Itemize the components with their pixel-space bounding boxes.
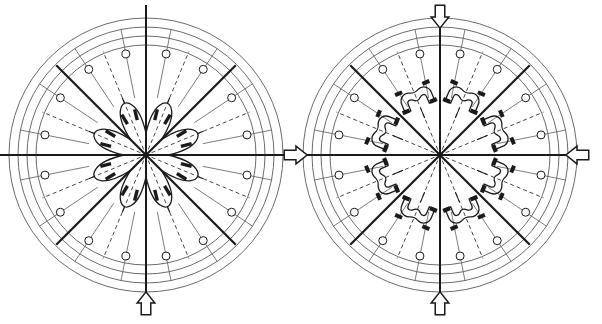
spoke-marker-circle <box>56 94 64 102</box>
spoke-marker-circle <box>335 171 343 179</box>
jaw-shoulder-right <box>375 109 382 117</box>
spoke-marker-circle <box>162 50 170 58</box>
jaw-connector-stub <box>122 207 124 213</box>
spoke-line <box>40 84 98 123</box>
jaw-tip-block <box>181 164 192 167</box>
jaw-connector-stub <box>167 207 169 213</box>
spoke-marker-circle <box>493 237 501 245</box>
arrow-load-top <box>431 5 449 28</box>
spoke-line <box>203 166 272 180</box>
jaw-body-outline <box>482 160 511 196</box>
spoke-line <box>157 212 171 281</box>
jaw-stem <box>393 170 403 174</box>
jaw-tip-block <box>135 190 138 201</box>
spoke-marker-circle <box>456 50 464 58</box>
spoke-marker-circle <box>379 237 387 245</box>
radial-mechanism-diagram <box>0 0 602 324</box>
spoke-marker-circle <box>41 171 49 179</box>
jaw-shoulder-left <box>477 213 485 220</box>
spoke-marker-circle <box>122 252 130 260</box>
arrow-load-right <box>566 146 589 164</box>
jaw-shoulder-left <box>498 109 505 117</box>
spoke-marker-circle <box>199 65 207 73</box>
spoke-line <box>178 203 217 261</box>
jaw-body-outline <box>399 85 435 114</box>
spoke-marker-circle <box>416 50 424 58</box>
spoke-marker-circle <box>162 252 170 260</box>
spoke-marker-circle <box>522 94 530 102</box>
spoke-marker-circle <box>350 208 358 216</box>
arrow-transition-right <box>284 146 307 164</box>
jaw-stem <box>393 135 403 139</box>
jaw-stem <box>420 192 424 202</box>
spoke-line <box>194 187 252 226</box>
contracted-state-diagram <box>0 5 296 305</box>
jaw-stem <box>477 170 487 174</box>
spoke-marker-circle <box>456 252 464 260</box>
jaw-connector-stub <box>167 98 169 104</box>
spoke-line <box>40 187 98 226</box>
spoke-line <box>20 166 89 180</box>
jaw-body-outline <box>445 85 481 114</box>
spoke-marker-circle <box>416 252 424 260</box>
jaw-stem <box>477 135 487 139</box>
spoke-marker-circle <box>228 208 236 216</box>
jaw-connector-stub <box>89 176 95 178</box>
spoke-marker-circle <box>335 131 343 139</box>
spoke-line <box>194 84 252 123</box>
spoke-marker-circle <box>493 65 501 73</box>
jaw-connector-stub <box>122 98 124 104</box>
spoke-line <box>121 29 135 98</box>
spoke-marker-circle <box>243 131 251 139</box>
spoke-marker-circle <box>537 171 545 179</box>
jaw-shoulder-left <box>394 90 402 97</box>
jaw-tip-block <box>100 164 111 167</box>
figure-canvas <box>0 0 602 324</box>
spoke-marker-circle <box>537 131 545 139</box>
spoke-line <box>178 49 217 107</box>
spoke-marker-circle <box>228 94 236 102</box>
spoke-marker-circle <box>522 208 530 216</box>
jaw-connector-stub <box>89 131 95 133</box>
jaw-stem <box>420 108 424 118</box>
jaw-tip-block <box>135 109 138 120</box>
spoke-line <box>75 49 114 107</box>
spoke-marker-circle <box>56 208 64 216</box>
expanded-state-diagram <box>297 12 583 298</box>
spoke-line <box>157 29 171 98</box>
jaw-shoulder-right <box>477 90 485 97</box>
spoke-marker-circle <box>350 94 358 102</box>
spoke-line <box>20 130 89 144</box>
jaw-body-outline <box>399 197 435 226</box>
spoke-line <box>203 130 272 144</box>
spoke-line <box>75 203 114 261</box>
jaw-connector-stub <box>198 176 204 178</box>
figure-caption <box>0 312 602 324</box>
spoke-marker-circle <box>85 65 93 73</box>
jaw-shoulder-left <box>375 192 382 200</box>
jaw-stem <box>455 192 459 202</box>
jaw-tip-block <box>155 109 158 120</box>
spoke-marker-circle <box>379 65 387 73</box>
jaw-tip-block <box>155 190 158 201</box>
jaw-shoulder-right <box>498 192 505 200</box>
jaw-shoulder-right <box>394 213 402 220</box>
spoke-marker-circle <box>85 237 93 245</box>
jaw-connector-stub <box>198 131 204 133</box>
jaw-body-outline <box>445 197 481 226</box>
spoke-line <box>121 212 135 281</box>
jaw-tip-block <box>181 144 192 147</box>
jaw-tip-block <box>100 144 111 147</box>
jaw-body-outline <box>482 114 511 150</box>
spoke-marker-circle <box>122 50 130 58</box>
jaw-stem <box>455 108 459 118</box>
jaw-body-outline <box>370 114 399 150</box>
spoke-marker-circle <box>41 131 49 139</box>
spoke-marker-circle <box>199 237 207 245</box>
jaw-body-outline <box>370 160 399 196</box>
spoke-marker-circle <box>243 171 251 179</box>
